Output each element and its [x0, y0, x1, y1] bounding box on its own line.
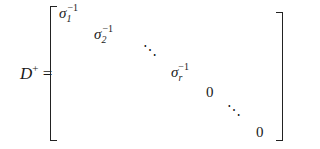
subscript: r: [178, 72, 182, 83]
lhs-expression: D+ =: [20, 62, 52, 84]
right-bracket: [276, 12, 283, 141]
lhs-symbol: D: [20, 64, 32, 83]
matrix-entry-zero-2: 0: [256, 124, 264, 141]
superscript: −1: [67, 2, 78, 13]
matrix-entry-sigma-1-inverse: σ1−1: [59, 5, 78, 22]
matrix-entry-zero-1: 0: [206, 84, 214, 101]
subscript: 1: [66, 13, 71, 24]
subscript: 2: [101, 34, 106, 45]
superscript: −1: [102, 23, 113, 34]
lhs-superscript: +: [32, 62, 38, 74]
left-bracket: [50, 6, 57, 141]
matrix-entry-sigma-r-inverse: σr−1: [171, 64, 189, 81]
matrix-entry-sigma-2-inverse: σ2−1: [94, 26, 113, 43]
superscript: −1: [178, 61, 189, 72]
diagonal-dots-2: ⋱: [227, 102, 241, 119]
diagonal-dots-1: ⋱: [143, 42, 157, 59]
